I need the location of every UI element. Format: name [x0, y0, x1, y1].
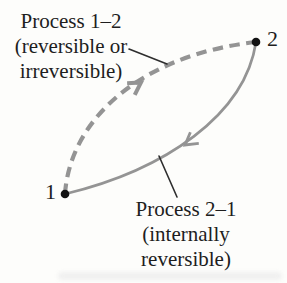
state-point-2-dot — [252, 38, 261, 47]
process-2-1-leader-line — [159, 156, 177, 197]
state-point-1-dot — [61, 190, 70, 199]
process-2-1-label-line1: Process 2–1 — [111, 197, 261, 222]
process-2-1-label-line2: (internally — [111, 222, 261, 247]
process-1-2-label-line2: (reversible or — [0, 34, 144, 59]
state-2-label: 2 — [264, 26, 281, 51]
state-1-label: 1 — [43, 179, 58, 204]
process-1-2-label-line1: Process 1–2 — [0, 9, 144, 34]
process-diagram-figure: Process 1–2 (reversible or irreversible)… — [0, 0, 287, 283]
scan-artifact — [58, 272, 282, 280]
process-2-1-label-line3: reversible) — [111, 247, 261, 272]
process-1-2-label-line3: irreversible) — [0, 59, 144, 84]
process-1-2-label: Process 1–2 (reversible or irreversible) — [0, 9, 144, 84]
process-2-1-label: Process 2–1 (internally reversible) — [111, 197, 261, 272]
